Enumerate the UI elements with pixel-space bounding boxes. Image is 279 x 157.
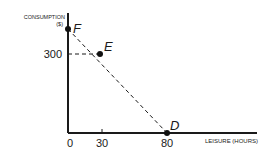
point-e-label: E — [104, 39, 113, 54]
point-e — [97, 51, 103, 57]
point-f — [65, 26, 71, 32]
y-tick-label-300: 300 — [44, 48, 62, 60]
x-tick-label-80: 80 — [161, 137, 173, 149]
x-tick-label-30: 30 — [96, 137, 108, 149]
point-d-label: D — [170, 118, 179, 133]
y-axis-label: CONSUMPTION — [24, 14, 65, 20]
x-axis-label: LEISURE (HOURS) — [205, 138, 258, 144]
budget-line — [68, 29, 167, 133]
x-tick-label-0: 0 — [67, 137, 73, 149]
y-axis-unit: ($) — [56, 21, 63, 27]
point-f-label: F — [73, 21, 82, 36]
budget-constraint-chart: F E D CONSUMPTION ($) 300 0 30 80 LEISUR… — [0, 0, 279, 157]
